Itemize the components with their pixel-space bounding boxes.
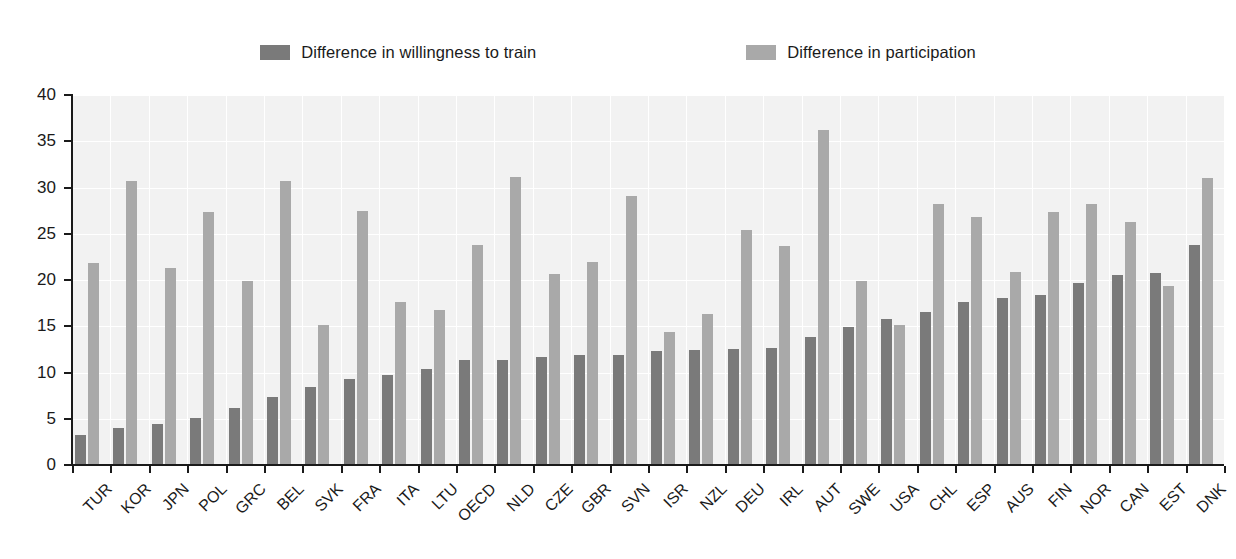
bar-can-participation (1125, 222, 1136, 465)
chart-container: 0510152025303540 TURKORJPNPOLGRCBELSVKFR… (0, 0, 1236, 559)
x-axis-tick (494, 466, 496, 473)
bar-aut-participation (818, 130, 829, 465)
y-axis-label-10: 10 (10, 363, 56, 383)
x-axis-label-wrap-cze: CZE (541, 480, 576, 515)
bar-jpn-willingness (152, 424, 163, 465)
bar-group (1109, 95, 1147, 465)
x-axis-label-wrap-dnk: DNK (1193, 480, 1230, 517)
x-axis-label-wrap-deu: DEU (732, 480, 769, 517)
bar-fin-willingness (1035, 295, 1046, 465)
x-axis-label-nld: NLD (503, 480, 538, 515)
x-axis-tick (840, 466, 842, 473)
bar-group (110, 95, 148, 465)
x-axis-tick (917, 466, 919, 473)
bar-group (725, 95, 763, 465)
bar-group (1186, 95, 1224, 465)
bar-group (72, 95, 110, 465)
y-axis-label-35: 35 (10, 131, 56, 151)
x-axis-tick (110, 466, 112, 473)
x-axis-tick (456, 466, 458, 473)
bar-group (149, 95, 187, 465)
x-axis-label-irl: IRL (777, 480, 807, 510)
bar-dnk-willingness (1189, 245, 1200, 465)
bar-group (878, 95, 916, 465)
y-axis-label-5: 5 (10, 409, 56, 429)
x-axis-label-ltu: LTU (428, 480, 461, 513)
x-axis-tick (1224, 466, 1226, 473)
x-axis-tick (571, 466, 573, 473)
bar-group (1032, 95, 1070, 465)
bar-grc-willingness (229, 408, 240, 465)
y-axis-tick (64, 418, 72, 420)
x-axis-label-wrap-ltu: LTU (428, 480, 461, 513)
x-axis-label-tur: TUR (80, 480, 116, 516)
x-axis-label-aut: AUT (810, 480, 845, 515)
bar-pol-participation (203, 212, 214, 465)
y-axis-tick (64, 94, 72, 96)
x-axis-label-wrap-pol: POL (196, 480, 231, 515)
bar-nor-willingness (1073, 283, 1084, 465)
y-axis-tick (64, 325, 72, 327)
x-axis-tick (379, 466, 381, 473)
x-axis-label-svn: SVN (618, 480, 654, 516)
y-axis-label-20: 20 (10, 270, 56, 290)
x-axis-label-wrap-isr: ISR (660, 480, 692, 512)
x-axis-label-wrap-ita: ITA (394, 480, 423, 509)
bar-est-participation (1163, 286, 1174, 465)
bar-group (994, 95, 1032, 465)
x-axis-label-esp: ESP (964, 480, 999, 515)
x-axis-tick (725, 466, 727, 473)
x-axis-tick (610, 466, 612, 473)
x-axis-label-usa: USA (886, 480, 922, 516)
x-axis-label-wrap-fra: FRA (349, 480, 384, 515)
bar-nld-willingness (497, 360, 508, 465)
bar-kor-participation (126, 181, 137, 465)
x-axis-tick (802, 466, 804, 473)
bar-group (456, 95, 494, 465)
y-axis-tick (64, 464, 72, 466)
bar-kor-willingness (113, 428, 124, 465)
bar-irl-participation (779, 246, 790, 465)
x-axis-tick (686, 466, 688, 473)
bar-group (341, 95, 379, 465)
bar-oecd-participation (472, 245, 483, 465)
bar-tur-willingness (75, 435, 86, 465)
bar-deu-participation (741, 230, 752, 465)
x-axis-label-wrap-esp: ESP (964, 480, 999, 515)
y-axis-label-15: 15 (10, 316, 56, 336)
x-axis-tick (1147, 466, 1149, 473)
bar-swe-willingness (843, 327, 854, 465)
plot-area (72, 95, 1224, 465)
bar-bel-willingness (267, 397, 278, 465)
bar-jpn-participation (165, 268, 176, 465)
x-axis-tick (226, 466, 228, 473)
bar-group (494, 95, 532, 465)
x-axis-label-wrap-grc: GRC (232, 480, 270, 518)
bar-group (917, 95, 955, 465)
x-axis-tick (1109, 466, 1111, 473)
bar-group (571, 95, 609, 465)
bar-group (379, 95, 417, 465)
bar-esp-participation (971, 217, 982, 465)
bar-deu-willingness (728, 349, 739, 465)
bar-group (686, 95, 724, 465)
x-axis-tick (187, 466, 189, 473)
x-axis-label-wrap-bel: BEL (274, 480, 308, 514)
y-axis-tick (64, 140, 72, 142)
x-axis-label-wrap-gbr: GBR (578, 480, 615, 517)
bar-grc-participation (242, 281, 253, 465)
x-axis-label-wrap-can: CAN (1116, 480, 1153, 517)
x-axis-tick (418, 466, 420, 473)
bar-svn-willingness (613, 355, 624, 465)
x-axis-label-wrap-est: EST (1156, 480, 1191, 515)
bar-isr-willingness (651, 351, 662, 465)
bar-group (533, 95, 571, 465)
y-axis-tick (64, 187, 72, 189)
x-axis-label-grc: GRC (232, 480, 270, 518)
bar-usa-participation (894, 325, 905, 465)
bar-dnk-participation (1202, 178, 1213, 465)
x-axis-label-cze: CZE (541, 480, 576, 515)
x-axis-label-wrap-usa: USA (886, 480, 922, 516)
bar-group (802, 95, 840, 465)
x-axis-label-oecd: OECD (454, 480, 499, 525)
